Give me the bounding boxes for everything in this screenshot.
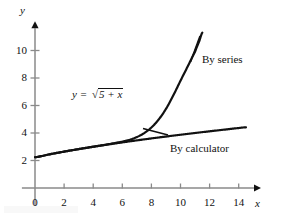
x-tick-label: 6 xyxy=(108,197,136,208)
y-tick-label: 8 xyxy=(1,72,27,83)
x-tick-label: 12 xyxy=(196,197,224,208)
y-tick-label: 2 xyxy=(1,155,27,166)
leader-lines-group xyxy=(143,36,200,135)
y-tick-label: 10 xyxy=(1,45,27,56)
equation-annotation: y = √5 + x xyxy=(72,88,123,100)
y-axis-name-label: y xyxy=(20,5,25,16)
x-tick-label: 8 xyxy=(137,197,165,208)
y-tick-label: 6 xyxy=(1,100,27,111)
axes-group xyxy=(22,21,261,206)
x-axis-name-label: x xyxy=(255,198,260,209)
series-label-leader xyxy=(191,36,201,62)
figure-sqrt-series-chart: 02468101214246810 y x y = √5 + x By seri… xyxy=(0,0,283,216)
y-tick-label: 4 xyxy=(1,127,27,138)
radical-group: √5 + x xyxy=(90,88,123,100)
x-tick-label: 10 xyxy=(167,197,195,208)
x-tick-label: 0 xyxy=(21,197,49,208)
x-axis-arrow-icon xyxy=(254,184,261,191)
x-tick-label: 4 xyxy=(79,197,107,208)
x-tick-label: 14 xyxy=(225,197,253,208)
radicand: 5 + x xyxy=(98,88,123,100)
series-curve-label: By series xyxy=(202,54,243,65)
curves-group xyxy=(35,33,246,158)
equation-lhs: y xyxy=(72,88,77,100)
equation-equals: = xyxy=(80,88,87,100)
calculator-curve-label: By calculator xyxy=(170,143,229,154)
chart-canvas xyxy=(0,0,283,216)
y-axis-arrow-icon xyxy=(31,21,38,28)
x-tick-label: 2 xyxy=(50,197,78,208)
